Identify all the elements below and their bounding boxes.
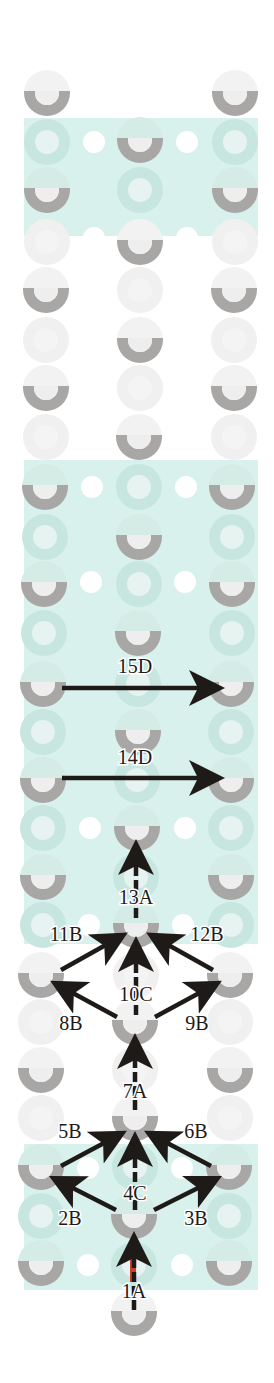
bead-icon — [211, 267, 257, 313]
bead-hole — [127, 572, 151, 596]
bead-icon — [114, 805, 160, 851]
bead-icon — [18, 952, 64, 998]
bead-hole — [35, 130, 59, 154]
bead-hole — [219, 816, 243, 840]
dot-icon — [176, 131, 198, 153]
bead-icon — [18, 1144, 64, 1190]
dot-icon — [83, 227, 105, 249]
step-label-10C: 10C — [119, 983, 152, 1005]
bead-hole — [34, 425, 58, 449]
bead-icon — [208, 661, 254, 707]
bead-icon — [206, 1144, 252, 1190]
bead-icon — [18, 1047, 64, 1093]
step-label-2B: 2B — [58, 1207, 81, 1229]
bead-icon — [212, 70, 258, 116]
step-label-15D: 15D — [118, 655, 152, 677]
bead-hole — [33, 525, 57, 549]
bead-hole — [217, 1204, 241, 1228]
dot-icon — [174, 571, 196, 593]
bead-icon — [117, 117, 163, 163]
bead-icon — [20, 757, 66, 803]
bead-icon — [18, 1240, 64, 1286]
step-label-8B: 8B — [59, 1012, 82, 1034]
dot-icon — [83, 131, 105, 153]
bead-hole — [128, 376, 152, 400]
bead-hole — [218, 1010, 242, 1034]
bead-hole — [127, 475, 151, 499]
bead-hole — [219, 720, 243, 744]
bead-icon — [207, 1047, 253, 1093]
bead-hole — [220, 621, 244, 645]
bead-icon — [211, 365, 257, 411]
bead-icon — [20, 854, 66, 900]
bead-hole — [222, 328, 246, 352]
dot-icon — [77, 1254, 99, 1276]
bead-icon — [115, 610, 161, 656]
bead-icon — [209, 464, 255, 510]
bead-hole — [128, 178, 152, 202]
dot-icon — [81, 476, 103, 498]
bead-hole — [222, 425, 246, 449]
bead-hole — [128, 278, 152, 302]
bead-hole — [29, 1106, 53, 1130]
bead-icon — [207, 952, 253, 998]
step-label-6B: 6B — [184, 1120, 207, 1142]
dot-icon — [77, 1157, 99, 1179]
bead-icon — [212, 167, 258, 213]
bead-icon — [117, 317, 163, 363]
bead-icon — [209, 561, 255, 607]
bead-hole — [223, 130, 247, 154]
bead-icon — [116, 514, 162, 560]
dot-icon — [174, 817, 196, 839]
bead-icon — [24, 167, 70, 213]
bead-hole — [31, 720, 55, 744]
bead-icon — [23, 267, 69, 313]
bead-pattern-diagram: 1A2B3B4C5B6B7A8B9B10C11B12B13A14D15D — [0, 0, 274, 1383]
step-label-9B: 9B — [185, 1012, 208, 1034]
dot-icon — [171, 1254, 193, 1276]
bead-icon — [20, 661, 66, 707]
dot-icon — [175, 476, 197, 498]
bead-icon — [206, 1240, 252, 1286]
step-label-14D: 14D — [118, 746, 152, 768]
bead-hole — [31, 816, 55, 840]
step-label-13A: 13A — [119, 886, 154, 908]
bead-icon — [116, 414, 162, 460]
step-label-5B: 5B — [58, 1120, 81, 1142]
step-label-1A: 1A — [122, 1280, 147, 1302]
bead-hole — [29, 1204, 53, 1228]
bead-hole — [29, 1010, 53, 1034]
bead-icon — [22, 464, 68, 510]
bead-icon — [21, 561, 67, 607]
bead-hole — [35, 230, 59, 254]
step-label-12B: 12B — [190, 923, 223, 945]
step-label-4C: 4C — [123, 1182, 146, 1204]
dot-icon — [171, 1157, 193, 1179]
bead-icon — [117, 219, 163, 265]
bead-hole — [34, 328, 58, 352]
bead-hole — [218, 1106, 242, 1130]
bead-icon — [23, 365, 69, 411]
step-label-11B: 11B — [50, 923, 83, 945]
step-label-3B: 3B — [184, 1207, 207, 1229]
step-label-7A: 7A — [123, 1080, 148, 1102]
dot-icon — [176, 227, 198, 249]
dot-icon — [79, 817, 101, 839]
bead-hole — [223, 230, 247, 254]
bead-icon — [208, 854, 254, 900]
bead-icon — [24, 70, 70, 116]
dot-icon — [80, 571, 102, 593]
bead-hole — [32, 621, 56, 645]
bead-hole — [220, 525, 244, 549]
